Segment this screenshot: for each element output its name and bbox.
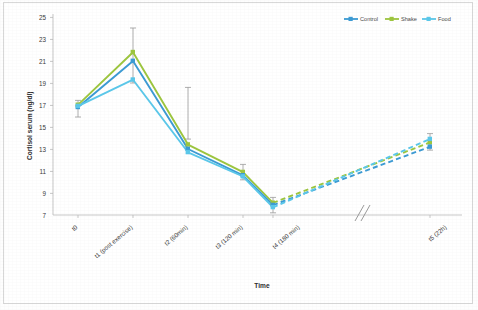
x-axis-title: Time	[254, 282, 270, 289]
x-cat-label-t0: t0	[70, 223, 79, 232]
x-cat-label-t3: t3 (120 min)	[214, 223, 244, 250]
y-tick-label-9: 9	[42, 190, 46, 197]
y-tick-label-13: 13	[39, 146, 47, 153]
x-cat-label-t1: t1 (post exercise)	[93, 223, 134, 259]
y-tick-label-7: 7	[42, 212, 46, 219]
series-line-food	[78, 80, 273, 208]
y-tick-label-25: 25	[39, 14, 47, 21]
legend-label-control: Control	[360, 16, 378, 22]
legend-label-shake: Shake	[401, 16, 417, 22]
axis-break-marker	[355, 205, 370, 221]
x-cat-label-t5: t5 (22h)	[427, 223, 448, 242]
x-cat-label-t2: t2 (60min)	[163, 223, 189, 246]
x-tick-marks	[78, 215, 430, 218]
y-tick-label-11: 11	[39, 168, 46, 175]
y-tick-label-19: 19	[39, 80, 47, 87]
y-tick-label-17: 17	[39, 102, 47, 109]
series-line-control	[78, 61, 273, 205]
y-axis-title: Cortisol serum (ng/dl)	[26, 91, 34, 160]
chart-figure: 25 23 21 19 17 15 13 11 9 7 Cortisol ser…	[0, 0, 478, 310]
chart-legend: Control Shake Food	[344, 16, 451, 22]
series-dash-food	[273, 139, 430, 207]
legend-marker-food	[427, 17, 431, 21]
legend-label-food: Food	[438, 16, 451, 22]
y-tick-label-21: 21	[39, 58, 47, 65]
cortisol-line-chart: 25 23 21 19 17 15 13 11 9 7 Cortisol ser…	[0, 0, 478, 310]
y-tick-label-23: 23	[39, 36, 47, 43]
y-tick-marks	[50, 17, 53, 193]
legend-item-control[interactable]: Control	[344, 16, 378, 22]
legend-marker-shake	[390, 17, 394, 21]
y-tick-label-15: 15	[39, 124, 47, 131]
x-cat-label-t4: t4 (180 min)	[271, 223, 301, 250]
legend-item-shake[interactable]: Shake	[385, 16, 417, 22]
legend-marker-control	[349, 17, 353, 21]
legend-item-food[interactable]: Food	[422, 16, 451, 22]
